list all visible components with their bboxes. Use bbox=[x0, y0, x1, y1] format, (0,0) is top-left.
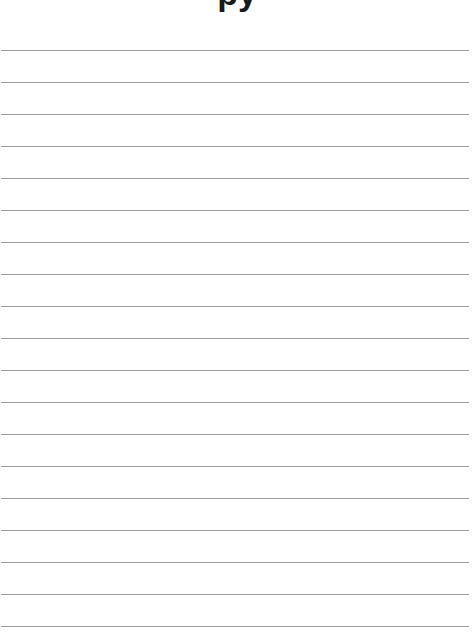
ruled-line bbox=[1, 210, 469, 211]
ruled-lines bbox=[0, 0, 474, 636]
ruled-line bbox=[1, 82, 469, 83]
ruled-line bbox=[1, 274, 469, 275]
ruled-line bbox=[1, 178, 469, 179]
ruled-line bbox=[1, 530, 469, 531]
ruled-line bbox=[1, 626, 469, 627]
ruled-line bbox=[1, 402, 469, 403]
ruled-line bbox=[1, 146, 469, 147]
ruled-line bbox=[1, 562, 469, 563]
ruled-line bbox=[1, 466, 469, 467]
ruled-line bbox=[1, 114, 469, 115]
ruled-line bbox=[1, 498, 469, 499]
ruled-line bbox=[1, 306, 469, 307]
ruled-line bbox=[1, 594, 469, 595]
ruled-line bbox=[1, 242, 469, 243]
ruled-line bbox=[1, 370, 469, 371]
ruled-line bbox=[1, 50, 469, 51]
ruled-line bbox=[1, 434, 469, 435]
ruled-line bbox=[1, 338, 469, 339]
